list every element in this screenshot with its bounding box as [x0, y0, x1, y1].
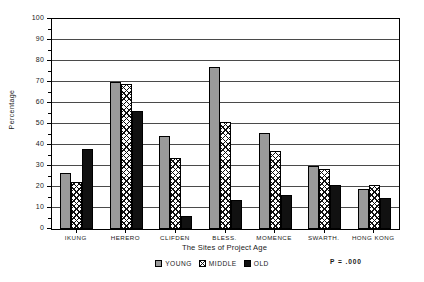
- x-tick-mark: [76, 229, 77, 233]
- x-category-label: HONG KONG: [352, 234, 395, 241]
- y-tick-label: 90: [22, 35, 44, 42]
- x-axis-title: The Sites of Project Age: [51, 243, 398, 252]
- bar: [170, 158, 181, 229]
- chart-legend: YOUNGMIDDLEOLD: [0, 260, 424, 267]
- y-tick-label: 70: [22, 77, 44, 84]
- x-tick-mark: [274, 229, 275, 233]
- x-category-label: IKUNG: [65, 234, 87, 241]
- legend-item[interactable]: YOUNG: [155, 260, 192, 267]
- legend-swatch-icon: [244, 260, 251, 267]
- bar: [209, 67, 220, 229]
- legend-item[interactable]: MIDDLE: [199, 260, 237, 267]
- bar: [308, 166, 319, 229]
- bar-group: [209, 19, 242, 229]
- bar: [358, 189, 369, 229]
- y-tick-label: 50: [22, 119, 44, 126]
- bar: [181, 216, 192, 229]
- y-tick-label: 30: [22, 161, 44, 168]
- legend-label: YOUNG: [165, 260, 192, 267]
- bar: [231, 200, 242, 229]
- bar-chart: Percentage 0102030405060708090100 IKUNGH…: [0, 0, 424, 282]
- bar: [319, 169, 330, 229]
- bar: [121, 84, 132, 229]
- bar-group: [358, 19, 391, 229]
- bar: [82, 149, 93, 229]
- y-axis-title: Percentage: [8, 80, 15, 140]
- bar: [380, 198, 391, 230]
- legend-label: MIDDLE: [209, 260, 237, 267]
- bar: [110, 82, 121, 229]
- y-tick-label: 100: [22, 14, 44, 21]
- x-tick-mark: [225, 229, 226, 233]
- x-category-label: SWARTH.: [308, 234, 339, 241]
- y-tick-label: 40: [22, 140, 44, 147]
- bar: [220, 122, 231, 229]
- x-category-label: HERERO: [111, 234, 140, 241]
- legend-swatch-icon: [155, 260, 162, 267]
- bar-group: [308, 19, 341, 229]
- bar-group: [60, 19, 93, 229]
- bar: [60, 173, 71, 229]
- x-tick-mark: [324, 229, 325, 233]
- x-category-label: CLIFDEN: [160, 234, 190, 241]
- legend-swatch-icon: [199, 260, 206, 267]
- plot-area: [51, 18, 400, 230]
- bar: [159, 136, 170, 229]
- bar-group: [110, 19, 143, 229]
- bar: [259, 133, 270, 229]
- bar: [330, 185, 341, 229]
- bar: [270, 151, 281, 229]
- y-tick-label: 80: [22, 56, 44, 63]
- legend-label: OLD: [254, 260, 269, 267]
- x-category-label: BLESS.: [212, 234, 236, 241]
- y-tick-label: 60: [22, 98, 44, 105]
- bar-group: [159, 19, 192, 229]
- bar: [369, 185, 380, 229]
- x-tick-mark: [373, 229, 374, 233]
- x-tick-mark: [175, 229, 176, 233]
- legend-item[interactable]: OLD: [244, 260, 269, 267]
- bar: [132, 111, 143, 229]
- x-category-label: MOMENCE: [256, 234, 291, 241]
- y-tick-label: 10: [22, 203, 44, 210]
- bar: [71, 182, 82, 229]
- y-tick-label: 0: [22, 224, 44, 231]
- bar: [281, 195, 292, 229]
- y-tick-label: 20: [22, 182, 44, 189]
- bar-group: [259, 19, 292, 229]
- x-tick-mark: [125, 229, 126, 233]
